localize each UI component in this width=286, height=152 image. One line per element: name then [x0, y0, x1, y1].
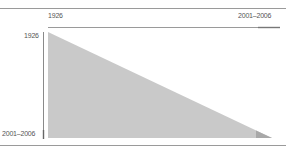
main-triangle: [48, 32, 272, 138]
bottom-rule: [0, 145, 286, 146]
triangle-diagram: [0, 0, 286, 152]
